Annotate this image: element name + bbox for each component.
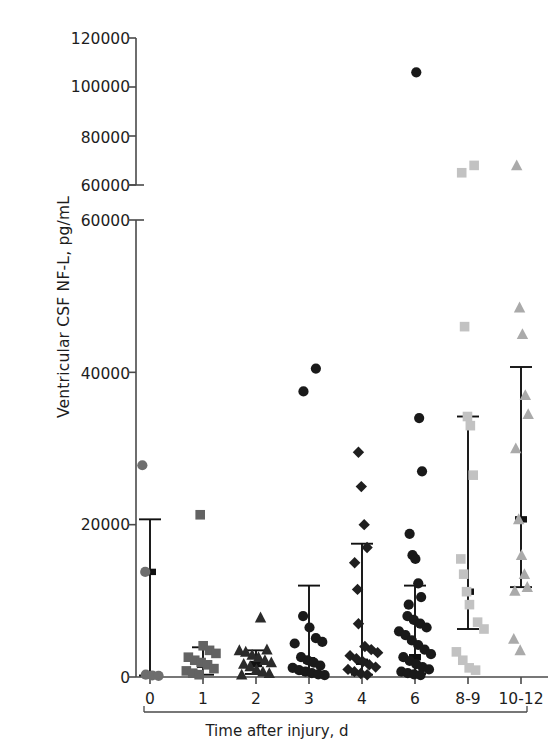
data-point-1-3 xyxy=(211,649,221,659)
data-point-8-9-7 xyxy=(459,569,469,579)
data-point-8-9-8 xyxy=(462,587,472,597)
data-point-10-12-11 xyxy=(508,633,519,644)
data-point-6-23 xyxy=(424,664,434,674)
data-point-6-18 xyxy=(426,649,436,659)
data-point-10-12-1 xyxy=(514,302,525,313)
data-point-6-12 xyxy=(422,622,432,632)
data-point-3-6 xyxy=(290,638,300,648)
data-point-1-0 xyxy=(195,510,205,520)
data-point-1-8 xyxy=(209,664,219,674)
data-point-10-12-2 xyxy=(517,328,528,339)
chart-figure: Ventricular CSF NF-L, pg/mL 120000 10000… xyxy=(0,0,554,744)
data-point-10-12-7 xyxy=(516,549,527,560)
data-point-8-9-1 xyxy=(457,168,467,178)
data-point-4-0 xyxy=(353,447,364,458)
data-point-6-6 xyxy=(413,578,423,588)
data-point-3-10 xyxy=(315,660,325,670)
data-point-10-12-0 xyxy=(511,159,522,170)
data-point-8-9-3 xyxy=(463,412,473,422)
data-point-1-11 xyxy=(194,670,204,680)
data-point-8-9-5 xyxy=(468,470,478,480)
data-point-8-9-9 xyxy=(465,600,475,610)
data-point-10-12-12 xyxy=(514,644,525,655)
data-point-6-7 xyxy=(416,592,426,602)
data-point-6-3 xyxy=(405,529,415,539)
data-point-2-1 xyxy=(261,644,272,655)
data-point-8-9-2 xyxy=(460,322,470,332)
data-point-6-1 xyxy=(414,413,424,423)
data-point-8-9-11 xyxy=(479,624,489,634)
data-point-3-16 xyxy=(320,670,330,680)
plot-area xyxy=(0,0,554,744)
data-point-6-0 xyxy=(411,67,421,77)
data-point-3-1 xyxy=(298,386,308,396)
data-point-3-3 xyxy=(304,622,314,632)
data-point-2-0 xyxy=(255,612,266,623)
data-point-6-5 xyxy=(410,554,420,564)
data-point-0-1 xyxy=(140,567,150,577)
data-point-4-2 xyxy=(358,519,369,530)
data-point-8-9-12 xyxy=(452,647,462,657)
data-point-6-27 xyxy=(415,670,425,680)
data-point-6-8 xyxy=(404,600,414,610)
data-point-0-4 xyxy=(153,671,163,681)
data-point-8-9-6 xyxy=(456,554,466,564)
data-point-8-9-15 xyxy=(471,665,481,675)
data-point-6-2 xyxy=(417,466,427,476)
data-point-8-9-0 xyxy=(469,161,479,171)
data-point-0-0 xyxy=(137,460,147,470)
data-point-4-4 xyxy=(349,557,360,568)
data-point-3-5 xyxy=(317,637,327,647)
data-point-4-1 xyxy=(356,481,367,492)
data-point-3-0 xyxy=(311,363,321,373)
data-point-10-12-5 xyxy=(510,443,521,454)
data-point-10-12-4 xyxy=(522,408,533,419)
data-point-8-9-4 xyxy=(466,421,476,431)
data-point-3-2 xyxy=(298,611,308,621)
